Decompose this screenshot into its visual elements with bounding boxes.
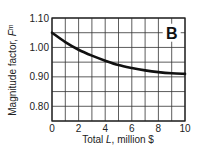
x-tick-label: 4 [102,123,108,134]
x-tick-label: 0 [49,123,55,134]
x-axis-ticks: 0246810 [49,123,191,134]
y-axis-ticks: 0.800.901.001.10 [30,13,50,112]
x-tick-label: 10 [179,123,191,134]
y-tick-label: 1.10 [30,13,50,24]
y-tick-label: 1.00 [30,42,50,53]
x-tick-label: 2 [76,123,82,134]
y-axis-label: Magnitude factor, Fm [7,24,18,116]
x-axis-label: Total L, million $ [82,134,154,145]
x-tick-label: 6 [129,123,135,134]
y-tick-label: 0.80 [30,101,50,112]
panel-label-box: B [163,24,181,42]
magnitude-factor-chart: B 0.800.901.001.10 0246810 Total L, mill… [0,0,197,149]
x-tick-label: 8 [156,123,162,134]
panel-label: B [166,25,178,42]
y-tick-label: 0.90 [30,71,50,82]
